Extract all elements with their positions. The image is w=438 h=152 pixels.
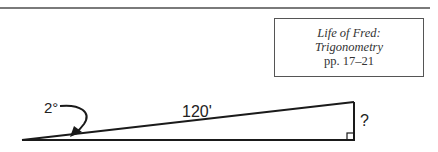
opposite-side-label: ? [360,112,369,129]
right-triangle-diagram: 2° 120' ? [0,0,438,152]
hypotenuse-label: 120' [182,103,212,120]
angle-label: 2° [44,99,58,116]
right-angle-marker [347,133,354,140]
